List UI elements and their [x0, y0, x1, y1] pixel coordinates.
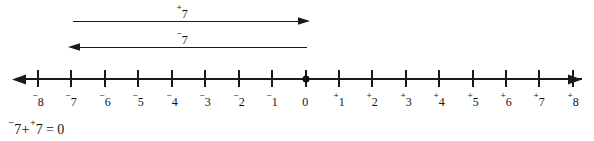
- tick-digit: 2: [372, 95, 378, 109]
- tick-digit: 1: [339, 95, 345, 109]
- axis-arrowhead-left-icon: [12, 72, 26, 87]
- tick-mark: [505, 70, 507, 87]
- tick-digit: 2: [239, 95, 245, 109]
- arrow-label-positive-seven: ⁺7: [176, 4, 187, 20]
- equation-equals: =: [43, 122, 57, 137]
- equation: ⁻7+⁺7=0: [8, 119, 65, 137]
- tick-digit: 3: [205, 95, 211, 109]
- tick-mark: [70, 70, 72, 87]
- arrow-label-positive-magnitude: 7: [182, 7, 188, 21]
- origin-dot-marker: [302, 76, 309, 83]
- tick-digit: 8: [38, 95, 44, 109]
- tick-label-0: 0: [303, 92, 309, 108]
- tick-label--1: ⁻1: [266, 92, 277, 108]
- tick-label-+4: ⁺4: [433, 92, 444, 108]
- tick-digit: 0: [302, 95, 308, 109]
- tick-label--5: ⁻5: [132, 92, 143, 108]
- tick-label--8: ⁻8: [32, 92, 43, 108]
- axis-arrowhead-right-icon: [568, 72, 582, 87]
- tick-digit: 4: [172, 95, 178, 109]
- number-line-diagram: ⁺7 ⁻7 ⁻8: [0, 0, 594, 141]
- tick-label-+1: ⁺1: [333, 92, 344, 108]
- tick-mark: [171, 70, 173, 87]
- tick-digit: 6: [506, 95, 512, 109]
- tick-label--6: ⁻6: [99, 92, 110, 108]
- tick-mark: [538, 70, 540, 87]
- equation-result: 0: [57, 122, 64, 137]
- negative-seven-arrow-shaft: [76, 47, 307, 49]
- tick-mark: [238, 70, 240, 87]
- positive-seven-arrow-shaft: [73, 21, 304, 23]
- tick-mark: [438, 70, 440, 87]
- arrowhead-left-icon: [68, 40, 80, 54]
- tick-label-+6: ⁺6: [500, 92, 511, 108]
- equation-operator: +: [21, 122, 29, 137]
- tick-digit: 8: [573, 95, 579, 109]
- arrow-label-negative-magnitude: 7: [182, 33, 188, 47]
- tick-mark: [472, 70, 474, 87]
- tick-mark: [204, 70, 206, 87]
- tick-label--3: ⁻3: [199, 92, 210, 108]
- equation-right-term: 7: [36, 122, 43, 137]
- tick-digit: 6: [105, 95, 111, 109]
- tick-mark: [572, 70, 574, 87]
- tick-label-+8: ⁺8: [567, 92, 578, 108]
- tick-digit: 3: [406, 95, 412, 109]
- tick-digit: 5: [138, 95, 144, 109]
- tick-label--2: ⁻2: [233, 92, 244, 108]
- tick-label-+7: ⁺7: [533, 92, 544, 108]
- tick-mark: [137, 70, 139, 87]
- tick-digit: 1: [272, 95, 278, 109]
- tick-label-+2: ⁺2: [366, 92, 377, 108]
- arrow-label-negative-seven: ⁻7: [176, 30, 187, 46]
- tick-mark: [338, 70, 340, 87]
- tick-mark: [104, 70, 106, 87]
- tick-label-+5: ⁺5: [467, 92, 478, 108]
- arrowhead-right-icon: [298, 14, 310, 28]
- tick-mark: [405, 70, 407, 87]
- tick-digit: 7: [71, 95, 77, 109]
- tick-digit: 7: [539, 95, 545, 109]
- tick-label-+3: ⁺3: [400, 92, 411, 108]
- tick-mark: [371, 70, 373, 87]
- tick-label--4: ⁻4: [166, 92, 177, 108]
- tick-label--7: ⁻7: [65, 92, 76, 108]
- tick-mark: [271, 70, 273, 87]
- tick-digit: 5: [473, 95, 479, 109]
- tick-mark: [37, 70, 39, 87]
- tick-digit: 4: [439, 95, 445, 109]
